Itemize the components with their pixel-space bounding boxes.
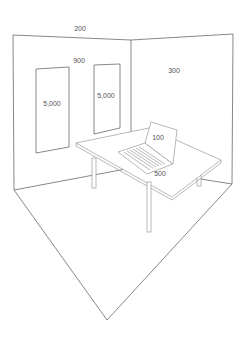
- desk-leg-back-left: [92, 158, 96, 188]
- laptop-screen-label: 100: [152, 134, 164, 141]
- right-wall-label: 300: [168, 67, 180, 74]
- window-right: [94, 64, 120, 134]
- right-wall-edge: [232, 34, 233, 184]
- floor-front-edge: [14, 184, 232, 320]
- room-diagram: [0, 0, 246, 337]
- window-left: [36, 67, 69, 153]
- window-left-label: 5,000: [43, 100, 61, 107]
- window-right-label: 5,000: [97, 92, 115, 99]
- left-wall-edge: [13, 35, 14, 190]
- desk-leg-front: [147, 182, 151, 232]
- ceiling-label: 200: [74, 25, 86, 32]
- desk-surface-label: 500: [154, 170, 166, 177]
- ceiling-edge: [13, 34, 233, 40]
- back-wall-label: 900: [73, 57, 85, 64]
